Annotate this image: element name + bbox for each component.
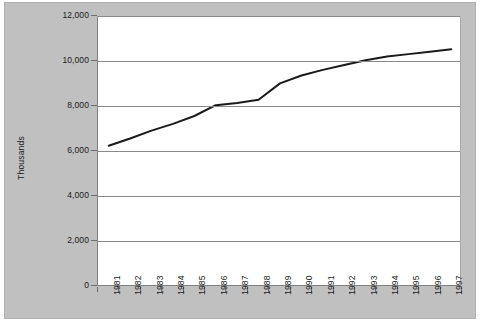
x-axis-tick-label-1982: 1982 (133, 275, 143, 295)
y-axis-tick-label: 6,000 (27, 146, 89, 155)
chart-frame: Thousands 12,00010,0008,0006,0004,0002,0… (4, 2, 476, 319)
plot-area (97, 16, 461, 286)
y-axis-tick (91, 105, 97, 106)
x-axis-tick-label-1992: 1992 (347, 275, 357, 295)
chart-screenshot: Thousands 12,00010,0008,0006,0004,0002,0… (0, 0, 481, 332)
y-axis-tick (91, 60, 97, 61)
y-axis-tick-label: 12,000 (27, 11, 89, 20)
x-axis-tick-label-1997: 1997 (454, 275, 464, 295)
x-axis-tick-label-1996: 1996 (433, 275, 443, 295)
gridline-6000 (98, 151, 460, 152)
x-axis-tick-label-1987: 1987 (240, 275, 250, 295)
x-axis-tick-label-1990: 1990 (304, 275, 314, 295)
y-axis-tick-label: 4,000 (27, 191, 89, 200)
gridline-8000 (98, 106, 460, 107)
y-axis-tick (91, 15, 97, 16)
y-axis-tick-label: 10,000 (27, 56, 89, 65)
x-axis-tick-label-1988: 1988 (262, 275, 272, 295)
y-axis-tick (91, 195, 97, 196)
x-axis-tick-label-1985: 1985 (197, 275, 207, 295)
y-axis-tick-label: 0 (27, 281, 89, 290)
series-line-layer (98, 17, 462, 287)
x-axis-tick-label-1991: 1991 (326, 275, 336, 295)
y-axis-tick-labels: 12,00010,0008,0006,0004,0002,0000 (23, 3, 89, 320)
x-axis-tick-label-1984: 1984 (176, 275, 186, 295)
y-axis-tick (91, 240, 97, 241)
x-axis-tick-label-1981: 1981 (112, 275, 122, 295)
x-axis-tick-label-1986: 1986 (219, 275, 229, 295)
series-line-1 (109, 49, 452, 146)
y-axis-tick (91, 285, 97, 286)
gridline-4000 (98, 196, 460, 197)
gridline-2000 (98, 241, 460, 242)
x-axis-tick-label-1983: 1983 (155, 275, 165, 295)
y-axis-tick-label: 8,000 (27, 101, 89, 110)
x-axis-tick-label-1993: 1993 (369, 275, 379, 295)
gridline-10000 (98, 61, 460, 62)
x-axis-tick (97, 287, 98, 292)
x-axis-tick-label-1995: 1995 (411, 275, 421, 295)
gridline-12000 (98, 16, 460, 17)
x-axis-tick-label-1989: 1989 (283, 275, 293, 295)
y-axis-tick (91, 150, 97, 151)
y-axis-tick-label: 2,000 (27, 236, 89, 245)
x-axis-tick-label-1994: 1994 (390, 275, 400, 295)
